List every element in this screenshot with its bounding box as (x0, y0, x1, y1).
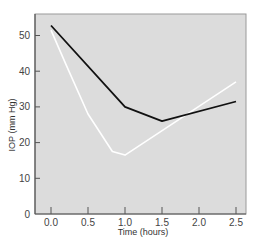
x-tick-label: 2.5 (229, 217, 243, 228)
x-axis-title: Time (hours) (118, 227, 169, 237)
y-tick-label: 50 (19, 30, 31, 41)
x-tick-label: 0.5 (81, 217, 95, 228)
y-axis-title: IOP (mm Hg) (7, 99, 17, 152)
y-tick-label: 30 (19, 101, 31, 112)
y-tick-label: 0 (24, 209, 30, 220)
iop-line-chart: 01020304050 0.00.51.01.52.02.5 IOP (mm H… (0, 0, 259, 244)
y-tick-label: 10 (19, 173, 31, 184)
x-tick-label: 2.0 (192, 217, 206, 228)
y-tick-label: 40 (19, 66, 31, 77)
y-tick-label: 20 (19, 137, 31, 148)
x-tick-label: 0.0 (44, 217, 58, 228)
